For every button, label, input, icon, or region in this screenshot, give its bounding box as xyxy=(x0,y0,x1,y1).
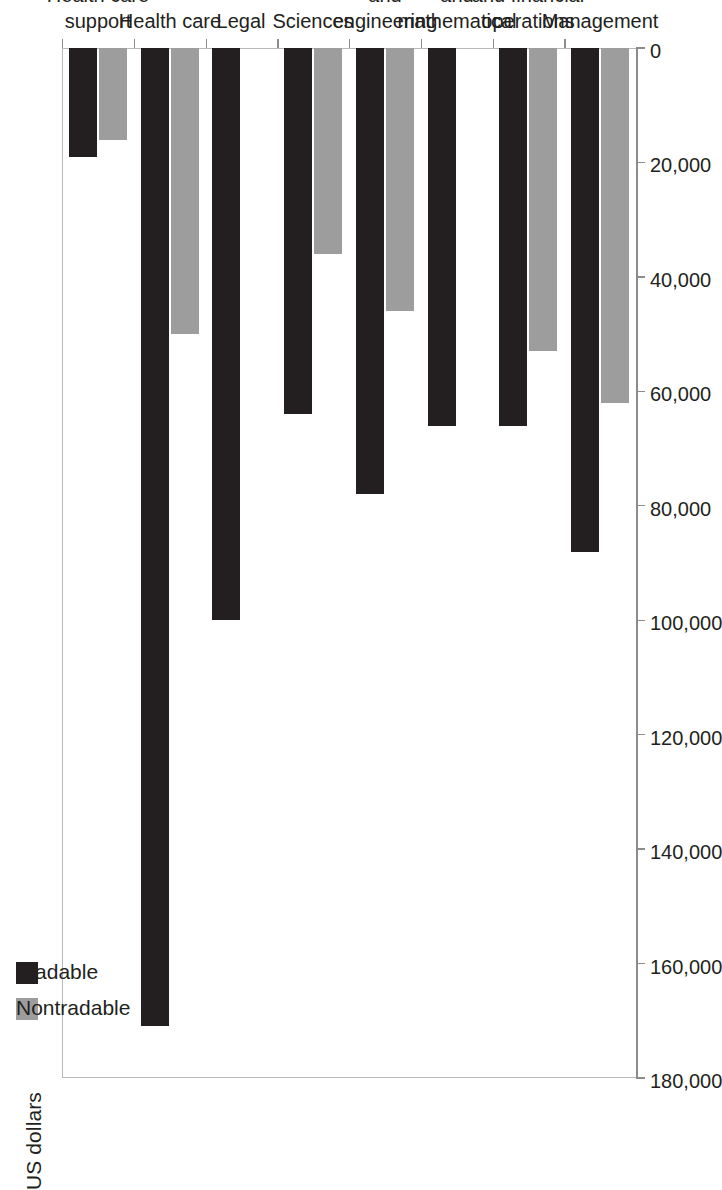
category-label-line: Legal xyxy=(217,8,266,34)
bar-tradable xyxy=(428,48,456,426)
bar-nontradable xyxy=(99,48,127,140)
category-label: Sciences xyxy=(273,8,354,34)
bar-tradable xyxy=(356,48,384,494)
category-tick xyxy=(277,39,278,48)
value-tick xyxy=(636,620,645,621)
category-tick xyxy=(349,39,350,48)
value-tick xyxy=(636,162,645,163)
bar-tradable xyxy=(284,48,312,414)
bar-nontradable xyxy=(171,48,199,334)
bar-nontradable xyxy=(386,48,414,311)
category-tick xyxy=(62,39,63,48)
value-tick-label: 20,000 xyxy=(650,154,711,177)
bar-nontradable xyxy=(314,48,342,254)
category-label-line: Health care xyxy=(47,0,149,8)
value-axis-line xyxy=(636,48,638,1078)
value-tick xyxy=(636,505,645,506)
category-label: Legal xyxy=(217,8,266,34)
bar-nontradable xyxy=(529,48,557,351)
category-label: Health caresupport xyxy=(47,0,149,34)
value-tick xyxy=(636,848,645,849)
value-tick xyxy=(636,734,645,735)
bar-nontradable xyxy=(601,48,629,403)
category-tick xyxy=(421,39,422,48)
category-tick xyxy=(564,39,565,48)
value-tick xyxy=(636,1077,645,1078)
value-tick-label: 160,000 xyxy=(650,956,722,979)
value-tick-label: 60,000 xyxy=(650,383,711,406)
value-axis-title: US dollars xyxy=(22,1092,46,1190)
legend-label: Nontradable xyxy=(16,996,130,1020)
value-tick-label: 40,000 xyxy=(650,269,711,292)
bar-tradable xyxy=(571,48,599,552)
value-tick-label: 120,000 xyxy=(650,727,722,750)
value-tick xyxy=(636,47,645,48)
legend-label: Tradable xyxy=(16,960,98,984)
bar-tradable xyxy=(212,48,240,620)
value-tick-label: 180,000 xyxy=(650,1070,722,1093)
category-label-line: Sciences xyxy=(273,8,354,34)
value-tick-label: 140,000 xyxy=(650,841,722,864)
value-tick xyxy=(636,391,645,392)
value-tick xyxy=(636,963,645,964)
category-tick xyxy=(493,39,494,48)
category-label-line: support xyxy=(47,8,149,34)
category-tick xyxy=(206,39,207,48)
bar-tradable xyxy=(141,48,169,1027)
value-tick-label: 0 xyxy=(650,40,661,63)
value-tick-label: 80,000 xyxy=(650,498,711,521)
category-tick xyxy=(134,39,135,48)
category-label-line: and xyxy=(332,0,439,8)
value-tick-label: 100,000 xyxy=(650,612,722,635)
bar-tradable xyxy=(499,48,527,426)
bar-tradable xyxy=(69,48,97,157)
value-tick xyxy=(636,276,645,277)
